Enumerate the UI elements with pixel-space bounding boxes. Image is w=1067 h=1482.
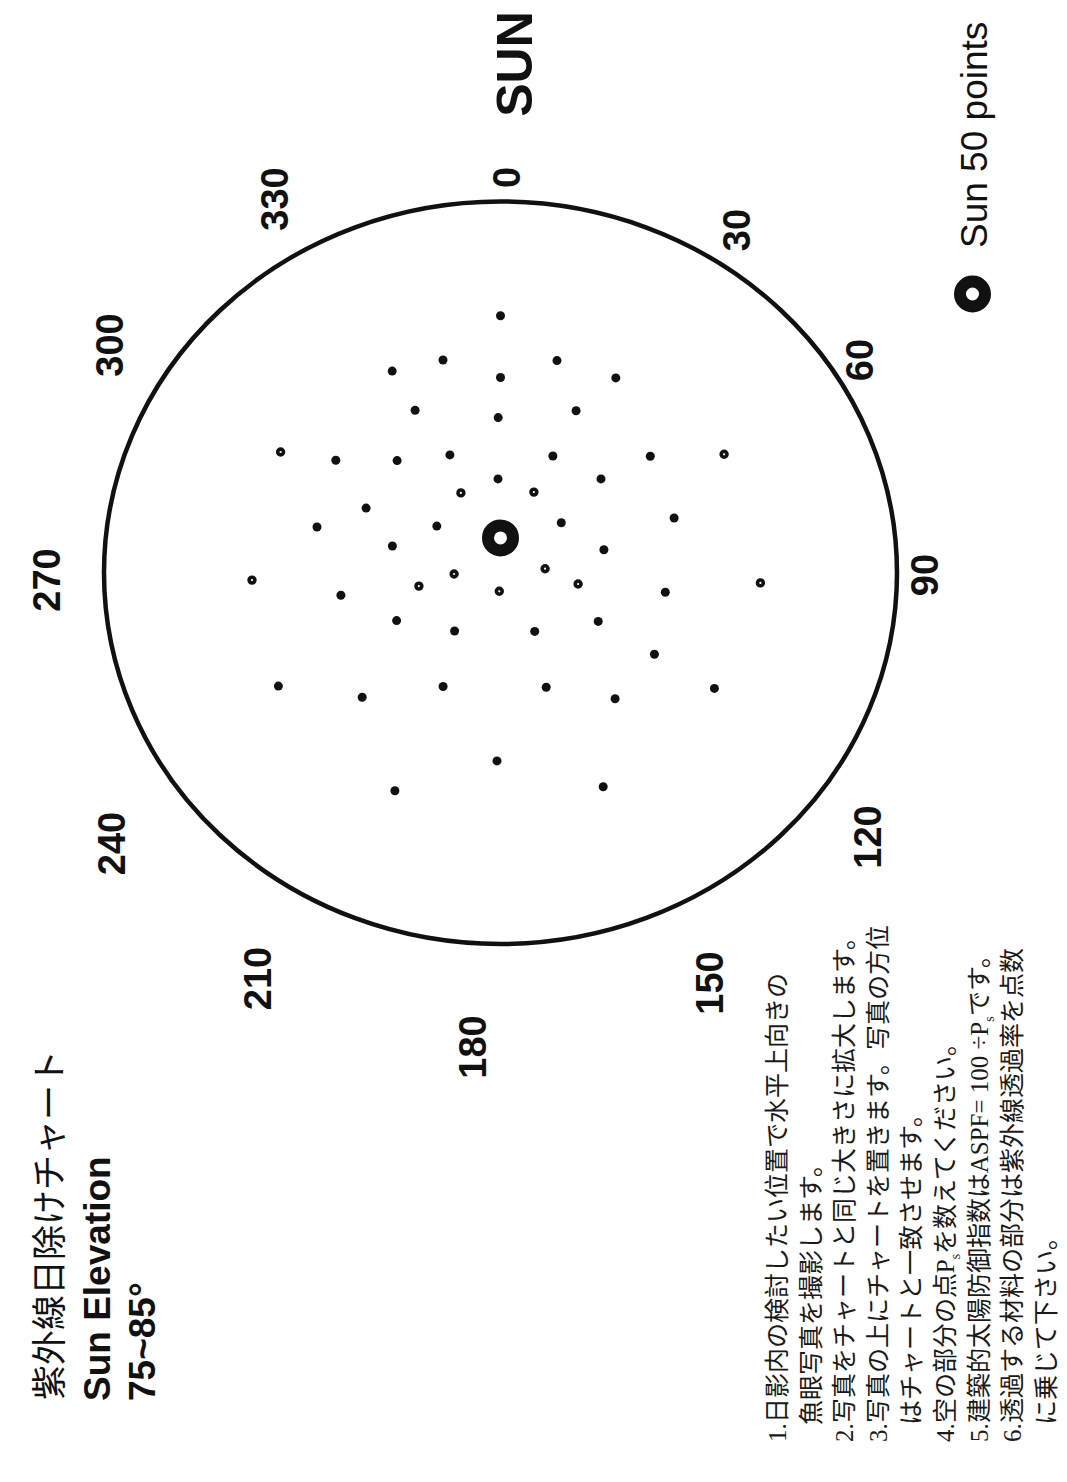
sample-point-ring-icon bbox=[451, 571, 457, 577]
legend-label: Sun 50 points bbox=[954, 22, 995, 248]
sample-point-dot-icon bbox=[439, 682, 448, 691]
sample-point-dot-icon bbox=[661, 588, 670, 597]
sample-point-dot-icon bbox=[445, 450, 454, 459]
sample-point-dot-icon bbox=[439, 356, 448, 365]
instruction-line-6: 6.透過する材料の部分は紫外線透過率を点数 bbox=[996, 925, 1030, 1442]
legend: Sun 50 points bbox=[954, 22, 995, 307]
instruction-line-3: 3.写真の上にチャートを置きます。写真の方位 bbox=[862, 925, 896, 1442]
sample-point-ring-icon bbox=[416, 583, 422, 589]
sample-point-ring-icon bbox=[249, 577, 255, 583]
sample-point-dot-icon bbox=[411, 406, 420, 415]
instruction-line-6-cont: に乗じて下さい。 bbox=[1030, 925, 1064, 1442]
sample-point-dot-icon bbox=[572, 406, 581, 415]
azimuth-label-270: 270 bbox=[26, 548, 68, 611]
sample-point-dot-icon bbox=[530, 627, 539, 636]
azimuth-label-60: 60 bbox=[839, 339, 881, 381]
instruction-line-4: 4.空の部分の点Psを数えてください。 bbox=[929, 925, 963, 1442]
instruction-line-5: 5.建築的太陽防御指数はASPF= 100 ÷Psです。 bbox=[963, 925, 997, 1442]
sample-point-dot-icon bbox=[331, 456, 340, 465]
instruction-line-3-cont: はチャートと一致させます。 bbox=[895, 925, 929, 1442]
title-english: Sun Elevation bbox=[79, 1156, 116, 1401]
sample-point-dot-icon bbox=[274, 682, 283, 691]
sample-point-ring-icon bbox=[278, 449, 284, 455]
sample-point-dot-icon bbox=[494, 413, 503, 422]
sample-point-dot-icon bbox=[599, 782, 608, 791]
sample-point-dot-icon bbox=[611, 373, 620, 382]
sample-point-dot-icon bbox=[388, 542, 397, 551]
sample-point-ring-icon bbox=[531, 489, 537, 495]
sample-point-dot-icon bbox=[611, 694, 620, 703]
sample-point-dot-icon bbox=[597, 474, 606, 483]
instruction-text: 4.空の部分の点P bbox=[932, 1259, 959, 1442]
sample-point-dot-icon bbox=[362, 504, 371, 513]
legend-ring-icon bbox=[960, 282, 985, 307]
sample-point-dot-icon bbox=[710, 684, 719, 693]
sample-point-dot-icon bbox=[358, 693, 367, 702]
sample-point-dot-icon bbox=[388, 367, 397, 376]
title-japanese: 紫外線日除けチャート bbox=[33, 1050, 68, 1400]
azimuth-label-240: 240 bbox=[91, 812, 133, 875]
instruction-text: 5.建築的太陽防御指数はASPF= 100 ÷P bbox=[966, 1022, 993, 1442]
sample-point-dot-icon bbox=[336, 591, 345, 600]
instruction-text: を数えてください。 bbox=[932, 1031, 959, 1254]
sample-point-dot-icon bbox=[432, 522, 441, 531]
subscript: s bbox=[948, 1254, 963, 1259]
sample-point-dot-icon bbox=[548, 452, 557, 461]
sample-point-ring-icon bbox=[575, 581, 581, 587]
sun-direction-label: SUN bbox=[487, 11, 543, 117]
azimuth-label-0: 0 bbox=[486, 167, 528, 188]
instruction-text: です。 bbox=[966, 943, 993, 1016]
instruction-line-1-cont: 魚眼写真を撮影します。 bbox=[795, 925, 829, 1442]
azimuth-label-330: 330 bbox=[254, 167, 296, 230]
azimuth-label-30: 30 bbox=[716, 209, 758, 251]
sample-point-dot-icon bbox=[494, 474, 503, 483]
sample-point-dot-icon bbox=[599, 545, 608, 554]
sample-point-dot-icon bbox=[542, 683, 551, 692]
sample-point-dot-icon bbox=[493, 756, 502, 765]
subscript: s bbox=[982, 1016, 997, 1021]
azimuth-label-210: 210 bbox=[237, 947, 279, 1010]
sun-marker-icon bbox=[488, 525, 513, 550]
azimuth-label-300: 300 bbox=[89, 313, 131, 376]
sample-point-dot-icon bbox=[496, 311, 505, 320]
sample-point-dot-icon bbox=[594, 617, 603, 626]
sample-point-ring-icon bbox=[721, 451, 727, 457]
sample-point-dot-icon bbox=[670, 514, 679, 523]
page-viewport: 0 30 60 90 120 150 180 210 240 270 300 3… bbox=[0, 0, 1067, 1482]
instruction-line-1: 1.日影内の検討したい位置で水平上向きの bbox=[761, 925, 795, 1442]
sample-point-dot-icon bbox=[393, 456, 402, 465]
sample-point-ring-icon bbox=[542, 566, 548, 572]
sample-point-ring-icon bbox=[758, 580, 764, 586]
sample-point-ring-icon bbox=[458, 490, 464, 496]
sample-point-dot-icon bbox=[390, 786, 399, 795]
sample-point-dot-icon bbox=[650, 650, 659, 659]
sample-point-dot-icon bbox=[496, 373, 505, 382]
elevation-range: 75~85° bbox=[124, 1282, 161, 1401]
instruction-line-2: 2.写真をチャートと同じ大きさに拡大します。 bbox=[828, 925, 862, 1442]
azimuth-label-150: 150 bbox=[689, 951, 731, 1014]
sample-point-dot-icon bbox=[392, 616, 401, 625]
azimuth-label-180: 180 bbox=[452, 1015, 494, 1078]
sample-point-ring-icon bbox=[496, 588, 502, 594]
sample-point-dot-icon bbox=[313, 523, 322, 532]
azimuth-label-120: 120 bbox=[847, 805, 889, 868]
sample-point-dot-icon bbox=[450, 627, 459, 636]
instructions: 1.日影内の検討したい位置で水平上向きの 魚眼写真を撮影します。 2.写真をチャ… bbox=[761, 925, 1063, 1442]
azimuth-label-90: 90 bbox=[904, 554, 946, 596]
sample-point-dot-icon bbox=[646, 452, 655, 461]
sample-point-dot-icon bbox=[557, 518, 566, 527]
sample-point-dot-icon bbox=[553, 356, 562, 365]
uv-shading-chart-sheet: 0 30 60 90 120 150 180 210 240 270 300 3… bbox=[0, 0, 1067, 1482]
